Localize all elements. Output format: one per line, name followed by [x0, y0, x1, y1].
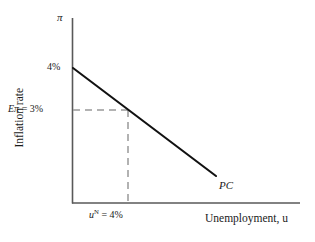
y-axis-symbol: π: [57, 12, 63, 23]
x-axis-title: Unemployment, u: [205, 213, 288, 225]
natural-rate-superscript: N: [94, 208, 99, 215]
plot-area: [0, 0, 315, 242]
expected-inflation-label: Eπ = 3%: [8, 104, 43, 114]
y-axis-tick-label-4-percent: 4%: [47, 62, 60, 72]
phillips-curve-line: [73, 68, 216, 176]
natural-rate-label: uN = 4%: [89, 209, 123, 220]
phillips-curve-label: PC: [219, 180, 233, 191]
natural-rate-value: = 4%: [101, 209, 122, 220]
expected-inflation-value: = 3%: [22, 103, 43, 114]
x-axis-title-text: Unemployment, u: [205, 212, 288, 224]
y-axis-title: Inflation rate: [14, 68, 26, 168]
expected-inflation-symbol: π: [14, 103, 19, 114]
phillips-curve-figure: π Inflation rate Unemployment, u 4% Eπ =…: [0, 0, 315, 242]
